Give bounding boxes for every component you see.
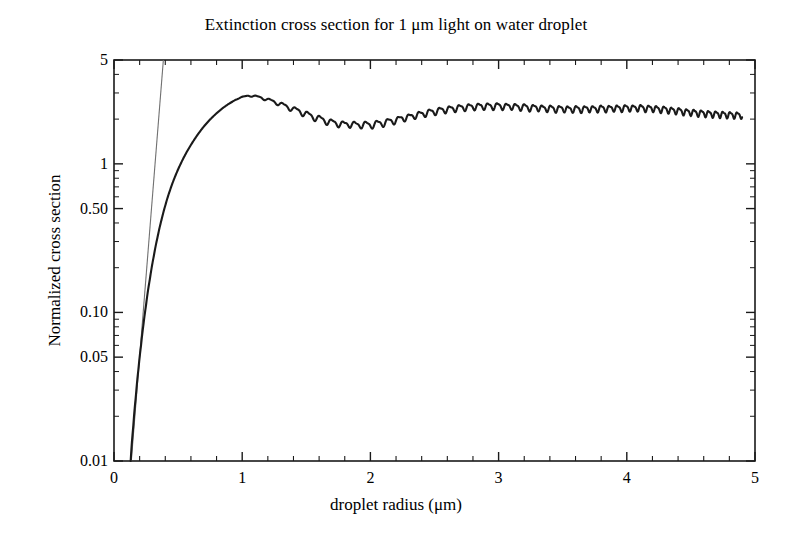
x-tick-label: 1 <box>238 469 246 487</box>
x-tick-label: 5 <box>751 469 759 487</box>
x-tick-label: 4 <box>623 469 631 487</box>
figure-container: Extinction cross section for 1 μm light … <box>0 0 792 535</box>
x-tick-label: 0 <box>110 469 118 487</box>
x-axis-tick-label-group: 012345 <box>0 0 792 535</box>
y-axis-title: Normalized cross section <box>46 101 63 421</box>
x-tick-label: 3 <box>495 469 503 487</box>
x-tick-label: 2 <box>366 469 374 487</box>
x-axis-title: droplet radius (μm) <box>0 496 792 513</box>
